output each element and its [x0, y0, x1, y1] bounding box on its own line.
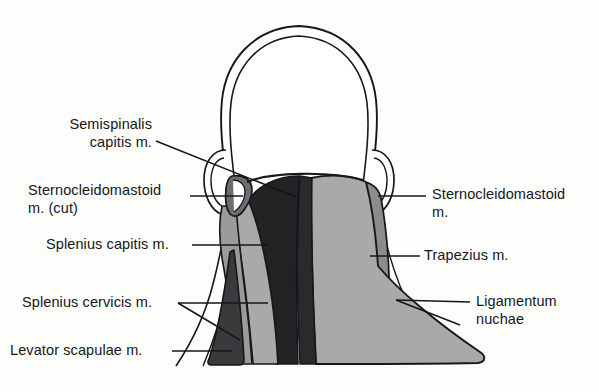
- label-sternocleidomastoid: Sternocleidomastoid m.: [432, 186, 596, 221]
- label-semispinalis-capitis: Semispinalis capitis m.: [52, 116, 152, 151]
- label-splenius-capitis: Splenius capitis m.: [46, 236, 188, 254]
- label-sternocleidomastoid-cut: Sternocleidomastoid m. (cut): [28, 182, 192, 217]
- head-outline-group: [221, 26, 377, 195]
- label-levator-scapulae: Levator scapulae m.: [10, 342, 168, 360]
- label-splenius-cervicis: Splenius cervicis m.: [22, 294, 174, 312]
- head-outer-outline: [221, 26, 377, 195]
- label-trapezius: Trapezius m.: [424, 247, 544, 265]
- anatomy-figure: Semispinalis capitis m. Sternocleidomast…: [0, 0, 599, 392]
- label-ligamentum-nuchae: Ligamentum nuchae: [476, 293, 588, 328]
